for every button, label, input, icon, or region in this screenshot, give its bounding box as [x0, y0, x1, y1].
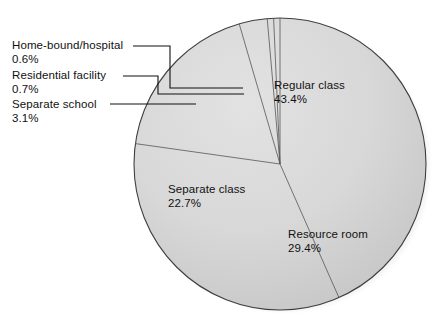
slice-label-separate-class-pct: 22.7%	[168, 196, 245, 210]
slice-label-home-bound-name: Home-bound/hospital	[12, 39, 123, 51]
slice-label-home-bound-pct: 0.6%	[12, 52, 123, 66]
slice-label-home-bound: Home-bound/hospital 0.6%	[12, 38, 123, 66]
slice-label-residential-pct: 0.7%	[12, 82, 106, 96]
slice-label-separate-class-name: Separate class	[168, 183, 245, 195]
slice-label-resource-room: Resource room 29.4%	[288, 227, 368, 255]
slice-label-separate-school: Separate school 3.1%	[12, 97, 97, 125]
slice-label-resource-room-pct: 29.4%	[288, 241, 368, 255]
slice-label-regular-class-pct: 43.4%	[274, 92, 345, 106]
slice-label-resource-room-name: Resource room	[288, 228, 368, 240]
slice-label-separate-school-pct: 3.1%	[12, 111, 97, 125]
slice-label-separate-class: Separate class 22.7%	[168, 182, 245, 210]
pie-chart-figure: Home-bound/hospital 0.6% Residential fac…	[0, 0, 445, 335]
slice-label-residential: Residential facility 0.7%	[12, 68, 106, 96]
slice-label-separate-school-name: Separate school	[12, 98, 97, 110]
slice-label-residential-name: Residential facility	[12, 69, 106, 81]
slice-label-regular-class-name: Regular class	[274, 79, 345, 91]
slice-label-regular-class: Regular class 43.4%	[274, 78, 345, 106]
